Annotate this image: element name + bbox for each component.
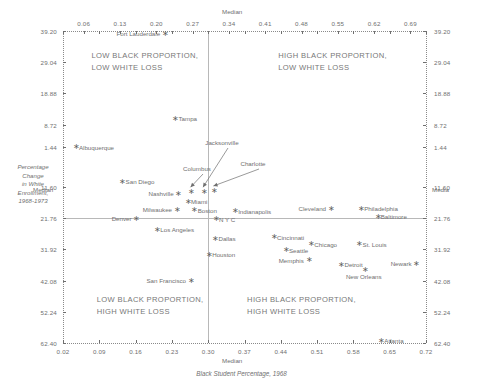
y-tick-label-right: 31.92 [434,246,450,253]
y-tick-label-right: 62.40 [434,340,450,347]
data-point-label: Cincinnati [277,235,304,241]
x-tick [172,31,173,34]
quadrant-label-line2: HIGH WHITE LOSS [97,306,204,318]
axis-bottom [63,343,426,344]
x-tick-top [84,31,85,34]
x-tick [317,31,318,34]
y-tick [63,187,66,188]
data-point-label: Dallas [218,236,235,242]
y-tick-label-left: 31.92 [19,246,57,253]
y-tick-label-right: 18.88 [434,90,450,97]
plot-area: Fort LauderdaleTampaAlbuquerqueSan Diego… [63,31,426,343]
axis-right [426,31,427,343]
y-tick-label-left: 18.88 [19,90,57,97]
data-point-label: Cleveland [299,206,327,212]
x-tick-top [338,31,339,34]
data-point-label: Milwaukee [143,207,172,213]
data-point-label: New Orleans [346,274,382,280]
data-point-label: Newark [391,261,412,267]
x-tick-label: 0.23 [165,348,178,355]
x-tick-label: 0.02 [57,348,70,355]
quadrant-label-line2: LOW WHITE LOSS [92,62,199,74]
y-tick-label-left: 52.24 [19,308,57,315]
x-tick-top [193,31,194,34]
data-point-label: San Francisco [146,278,186,284]
x-tick-top [374,31,375,34]
y-tick [63,93,66,94]
x-tick [353,340,354,343]
x-tick-label: 0.30 [202,348,215,355]
y-tick-label-right: 21.76 [434,215,450,222]
y-tick-label-right: 39.20 [434,28,450,35]
x-tick-label: 0.72 [420,348,433,355]
data-point-label: Miami [191,199,208,205]
x-tick [353,31,354,34]
x-tick-label: 0.58 [347,348,360,355]
quadrant-label-line1: LOW BLACK PROPORTION, [92,50,199,62]
x-tick-label-top: 0.62 [368,20,381,27]
x-tick-label-top: 0.48 [295,20,308,27]
x-tick-label-top: 0.55 [331,20,344,27]
x-tick [281,31,282,34]
data-point-label: Fort Lauderdale [116,31,160,37]
data-point-label: Baltimore [381,214,407,220]
y-tick [63,312,66,313]
y-tick [423,93,426,94]
data-point-label: Detroit [344,262,362,268]
data-point-label: San Diego [126,179,155,185]
y-tick [63,249,66,250]
x-tick-top [302,31,303,34]
x-tick-top [265,31,266,34]
quadrant-label-top-left: LOW BLACK PROPORTION,LOW WHITE LOSS [92,50,199,73]
y-tick [423,62,426,63]
y-axis-title-line1: Percentage [6,163,60,172]
y-tick [63,62,66,63]
callout-label-jacksonville: Jacksonville [205,139,238,146]
x-tick-label-top: 0.34 [223,20,236,27]
x-tick-label-top: 0.27 [186,20,199,27]
quadrant-label-top-right: HIGH BLACK PROPORTION,LOW WHITE LOSS [278,50,387,73]
y-tick [423,147,426,148]
y-tick-label-left: 1.44 [19,143,57,150]
x-tick-label-top: 0.20 [150,20,163,27]
y-tick [423,343,426,344]
x-tick [208,31,209,34]
x-tick [245,340,246,343]
callout-label-columbus: Columbus [183,165,211,172]
y-tick [63,281,66,282]
y-tick-label-right: 8.72 [434,121,447,128]
y-tick-label-right: 29.04 [434,59,450,66]
data-point-label: Houston [212,252,235,258]
y-tick [423,312,426,313]
quadrant-label-line1: HIGH BLACK PROPORTION, [247,294,356,306]
y-tick-label-left: 29.04 [19,59,57,66]
y-tick [423,281,426,282]
x-tick-label: 0.65 [383,348,396,355]
quadrant-label-bottom-right: HIGH BLACK PROPORTION,HIGH WHITE LOSS [247,294,356,317]
y-tick-label-left: 39.20 [19,28,57,35]
y-tick [423,31,426,32]
y-tick [423,125,426,126]
x-tick [136,340,137,343]
y-tick [63,343,66,344]
y-tick-label-left: 21.76 [19,215,57,222]
x-tick-label: 0.37 [238,348,251,355]
x-tick-label-top: 0.13 [114,20,127,27]
x-tick [426,31,427,34]
median-label-bottom: Median [222,357,242,364]
data-point-label: Seattle [289,247,308,253]
y-tick-label-left: 62.40 [19,340,57,347]
x-tick-top [410,31,411,34]
quadrant-label-line2: LOW WHITE LOSS [278,62,387,74]
y-tick [63,147,66,148]
data-point-label: Albuquerque [79,145,114,151]
y-tick [423,218,426,219]
data-point-label: Denver [112,216,132,222]
data-point-label: Nashville [148,191,173,197]
data-point-label: Tampa [178,116,197,122]
x-tick-label: 0.09 [93,348,106,355]
x-tick [172,340,173,343]
median-line-vertical [208,31,209,343]
x-tick [208,340,209,343]
y-tick-label-left: 42.08 [19,277,57,284]
